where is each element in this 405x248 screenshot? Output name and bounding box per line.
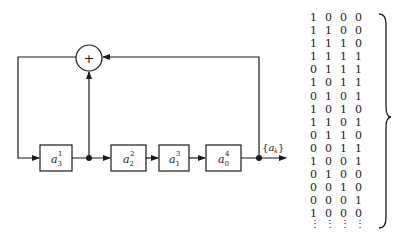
state-bit: 0 [340, 168, 355, 181]
state-bit: 1 [310, 103, 325, 116]
register-label-2: a22 [123, 150, 135, 168]
state-bit: 0 [325, 181, 340, 194]
state-bit: 1 [355, 90, 370, 103]
state-row: 0001 [310, 194, 370, 207]
state-bit: 0 [310, 168, 325, 181]
state-bit: 0 [340, 116, 355, 129]
vertical-ellipsis: ⋮ [340, 221, 355, 234]
state-bit: 1 [340, 63, 355, 76]
state-bit: 1 [325, 129, 340, 142]
state-bit: 1 [355, 194, 370, 207]
state-bit: 1 [340, 103, 355, 116]
vertical-ellipsis: ⋮ [310, 221, 325, 234]
state-bit: 0 [325, 155, 340, 168]
state-bit: 0 [310, 90, 325, 103]
state-row: 0010 [310, 181, 370, 194]
state-bit: 0 [325, 194, 340, 207]
state-bit: 1 [355, 155, 370, 168]
state-bit: 0 [310, 63, 325, 76]
state-row: 1011 [310, 76, 370, 89]
state-bit: 1 [325, 90, 340, 103]
state-row: 1001 [310, 155, 370, 168]
state-table: 1000 1100 1110 1111 0111 1011 0101 1010 … [310, 11, 370, 234]
plus-symbol: + [84, 51, 95, 66]
state-bit: 1 [355, 116, 370, 129]
state-bit: 0 [325, 103, 340, 116]
state-bit: 1 [325, 37, 340, 50]
state-bit: 0 [340, 11, 355, 24]
state-bit: 0 [325, 11, 340, 24]
state-bit: 1 [310, 50, 325, 63]
state-row: 1101 [310, 116, 370, 129]
state-bit: 0 [340, 90, 355, 103]
state-bit: 1 [340, 181, 355, 194]
state-bit: 1 [325, 63, 340, 76]
state-bit: 1 [340, 129, 355, 142]
state-row: 1000 [310, 11, 370, 24]
state-bit: 1 [340, 76, 355, 89]
state-bit: 1 [325, 168, 340, 181]
state-row: 0100 [310, 168, 370, 181]
state-bit: 1 [310, 37, 325, 50]
state-bit: 1 [340, 37, 355, 50]
state-bit: 1 [355, 63, 370, 76]
state-bit: 1 [325, 116, 340, 129]
state-bit: 1 [325, 50, 340, 63]
state-bit: 1 [310, 76, 325, 89]
state-bit: 0 [355, 103, 370, 116]
register-label-3: a13 [169, 150, 181, 168]
state-bit: 1 [310, 11, 325, 24]
state-bit: 0 [355, 129, 370, 142]
state-bit: 0 [310, 181, 325, 194]
state-bit: 0 [325, 142, 340, 155]
state-bit: 0 [340, 24, 355, 37]
state-bit: 0 [340, 194, 355, 207]
state-bit: 0 [325, 76, 340, 89]
state-bit: 1 [355, 76, 370, 89]
right-brace [379, 14, 391, 228]
feedback-path-left [18, 57, 76, 158]
state-bit: 1 [310, 24, 325, 37]
state-bit: 0 [355, 37, 370, 50]
state-row: 0111 [310, 63, 370, 76]
state-row: 1111 [310, 50, 370, 63]
state-bit: 1 [340, 50, 355, 63]
state-bit: 1 [355, 50, 370, 63]
vertical-ellipsis: ⋮ [355, 221, 370, 234]
register-label-4: a04 [218, 150, 230, 168]
summer-node: + [76, 45, 102, 71]
state-bit: 0 [340, 155, 355, 168]
state-row: 1110 [310, 37, 370, 50]
state-bit: 1 [355, 142, 370, 155]
state-bit: 0 [310, 194, 325, 207]
state-bit: 0 [310, 129, 325, 142]
state-bit: 0 [355, 24, 370, 37]
state-row: 0110 [310, 129, 370, 142]
state-row: 0101 [310, 90, 370, 103]
state-bit: 0 [355, 181, 370, 194]
continuation-row: ⋮⋮⋮⋮ [310, 221, 370, 234]
feedback-path-right [103, 57, 259, 158]
state-bit: 1 [310, 155, 325, 168]
state-bit: 1 [325, 24, 340, 37]
state-row: 1010 [310, 103, 370, 116]
state-bit: 0 [310, 142, 325, 155]
vertical-ellipsis: ⋮ [325, 221, 340, 234]
state-bit: 0 [355, 168, 370, 181]
state-bit: 1 [340, 142, 355, 155]
state-row: 1100 [310, 24, 370, 37]
output-sequence-label: {ak} [262, 142, 284, 154]
state-bit: 1 [310, 116, 325, 129]
register-label-1: a31 [51, 150, 63, 168]
state-row: 0011 [310, 142, 370, 155]
state-bit: 0 [355, 11, 370, 24]
